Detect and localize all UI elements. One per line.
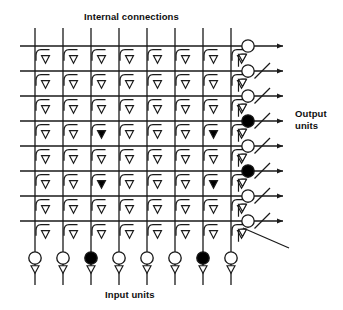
synapse-triangle-inactive[interactable] <box>70 106 78 114</box>
synapse-cell-r5-c6[interactable] <box>176 150 190 164</box>
output-unit-circle-open[interactable] <box>242 215 254 227</box>
synapse-cell-r1-c1[interactable] <box>36 50 50 64</box>
synapse-triangle-inactive[interactable] <box>42 56 50 64</box>
synapse-triangle-inactive[interactable] <box>126 106 134 114</box>
synapse-cell-r5-c7[interactable] <box>204 150 218 164</box>
synapse-cell-r5-c3[interactable] <box>92 150 106 164</box>
synapse-triangle-inactive[interactable] <box>98 231 106 239</box>
output-unit-3[interactable] <box>239 88 271 117</box>
synapse-triangle-inactive[interactable] <box>126 181 134 189</box>
input-unit-5[interactable] <box>141 252 153 273</box>
input-unit-triangle[interactable] <box>59 266 67 274</box>
synapse-cell-r8-c5[interactable] <box>148 225 162 239</box>
output-unit-circle-open[interactable] <box>242 90 254 102</box>
input-unit-triangle[interactable] <box>31 266 39 274</box>
input-unit-7[interactable] <box>197 252 209 273</box>
synapse-cell-r1-c5[interactable] <box>148 50 162 64</box>
synapse-cell-r8-c6[interactable] <box>176 225 190 239</box>
synapse-cell-r2-c3[interactable] <box>92 75 106 89</box>
synapse-cell-r4-c7[interactable] <box>204 125 218 139</box>
synapse-triangle-inactive[interactable] <box>154 56 162 64</box>
synapse-cell-r7-c4[interactable] <box>120 200 134 214</box>
synapse-triangle-inactive[interactable] <box>42 106 50 114</box>
synapse-triangle-inactive[interactable] <box>98 206 106 214</box>
synapse-triangle-inactive[interactable] <box>210 206 218 214</box>
synapse-cell-r4-c1[interactable] <box>36 125 50 139</box>
synapse-cell-r8-c3[interactable] <box>92 225 106 239</box>
synapse-triangle-inactive[interactable] <box>70 206 78 214</box>
synapse-cell-r7-c7[interactable] <box>204 200 218 214</box>
synapse-cell-r1-c4[interactable] <box>120 50 134 64</box>
synapse-triangle-inactive[interactable] <box>98 156 106 164</box>
synapse-cell-r7-c6[interactable] <box>176 200 190 214</box>
output-unit-2[interactable] <box>239 63 271 92</box>
synapse-cell-r8-c4[interactable] <box>120 225 134 239</box>
input-unit-circle-open[interactable] <box>141 252 153 264</box>
synapse-triangle-inactive[interactable] <box>42 181 50 189</box>
synapse-triangle-inactive[interactable] <box>210 81 218 89</box>
synapse-cell-r4-c5[interactable] <box>148 125 162 139</box>
synapse-cell-r1-c3[interactable] <box>92 50 106 64</box>
synapse-triangle-inactive[interactable] <box>154 131 162 139</box>
synapse-cell-r5-c1[interactable] <box>36 150 50 164</box>
output-unit-7[interactable] <box>239 188 271 217</box>
input-unit-1[interactable] <box>29 252 41 273</box>
synapse-cell-r3-c6[interactable] <box>176 100 190 114</box>
synapse-triangle-inactive[interactable] <box>154 156 162 164</box>
synapse-cell-r8-c2[interactable] <box>64 225 78 239</box>
synapse-cell-r5-c5[interactable] <box>148 150 162 164</box>
synapse-triangle-inactive[interactable] <box>70 131 78 139</box>
input-unit-triangle[interactable] <box>143 266 151 274</box>
synapse-triangle-inactive[interactable] <box>42 131 50 139</box>
synapse-triangle-inactive[interactable] <box>182 131 190 139</box>
input-unit-circle-open[interactable] <box>225 252 237 264</box>
input-unit-circle-open[interactable] <box>169 252 181 264</box>
synapse-cell-r6-c7[interactable] <box>204 175 218 189</box>
synapse-triangle-inactive[interactable] <box>70 156 78 164</box>
synapse-triangle-inactive[interactable] <box>182 81 190 89</box>
synapse-cell-r3-c3[interactable] <box>92 100 106 114</box>
synapse-triangle-inactive[interactable] <box>154 231 162 239</box>
input-unit-3[interactable] <box>85 252 97 273</box>
synapse-cell-r7-c3[interactable] <box>92 200 106 214</box>
synapse-cell-r6-c5[interactable] <box>148 175 162 189</box>
synapse-triangle-inactive[interactable] <box>210 56 218 64</box>
synapse-triangle-active[interactable] <box>210 131 218 139</box>
synapse-triangle-inactive[interactable] <box>126 131 134 139</box>
synapse-cell-r2-c2[interactable] <box>64 75 78 89</box>
synapse-triangle-inactive[interactable] <box>98 106 106 114</box>
synapse-triangle-inactive[interactable] <box>182 106 190 114</box>
synapse-cell-r6-c2[interactable] <box>64 175 78 189</box>
synapse-cell-r2-c6[interactable] <box>176 75 190 89</box>
synapse-triangle-inactive[interactable] <box>182 156 190 164</box>
output-unit-4[interactable] <box>239 113 271 142</box>
synapse-cell-r1-c7[interactable] <box>204 50 218 64</box>
input-unit-8[interactable] <box>225 252 237 273</box>
synapse-triangle-inactive[interactable] <box>154 206 162 214</box>
synapse-cell-r6-c4[interactable] <box>120 175 134 189</box>
input-unit-circle-filled[interactable] <box>197 252 209 264</box>
synapse-triangle-inactive[interactable] <box>126 231 134 239</box>
synapse-triangle-active[interactable] <box>98 131 106 139</box>
input-unit-triangle[interactable] <box>115 266 123 274</box>
synapse-triangle-inactive[interactable] <box>154 106 162 114</box>
synapse-triangle-inactive[interactable] <box>126 156 134 164</box>
synapse-cell-r3-c2[interactable] <box>64 100 78 114</box>
synapse-cell-r6-c6[interactable] <box>176 175 190 189</box>
synapse-cell-r3-c1[interactable] <box>36 100 50 114</box>
synapse-triangle-inactive[interactable] <box>126 81 134 89</box>
output-unit-circle-open[interactable] <box>242 40 254 52</box>
input-unit-circle-open[interactable] <box>57 252 69 264</box>
synapse-cell-r2-c5[interactable] <box>148 75 162 89</box>
input-unit-triangle[interactable] <box>227 266 235 274</box>
synapse-triangle-inactive[interactable] <box>210 231 218 239</box>
input-unit-circle-filled[interactable] <box>85 252 97 264</box>
synapse-triangle-inactive[interactable] <box>126 56 134 64</box>
input-unit-2[interactable] <box>57 252 69 273</box>
output-unit-circle-filled[interactable] <box>242 165 254 177</box>
synapse-cell-r1-c6[interactable] <box>176 50 190 64</box>
synapse-triangle-inactive[interactable] <box>182 206 190 214</box>
synapse-triangle-inactive[interactable] <box>98 56 106 64</box>
synapse-cell-r7-c2[interactable] <box>64 200 78 214</box>
input-unit-circle-open[interactable] <box>113 252 125 264</box>
